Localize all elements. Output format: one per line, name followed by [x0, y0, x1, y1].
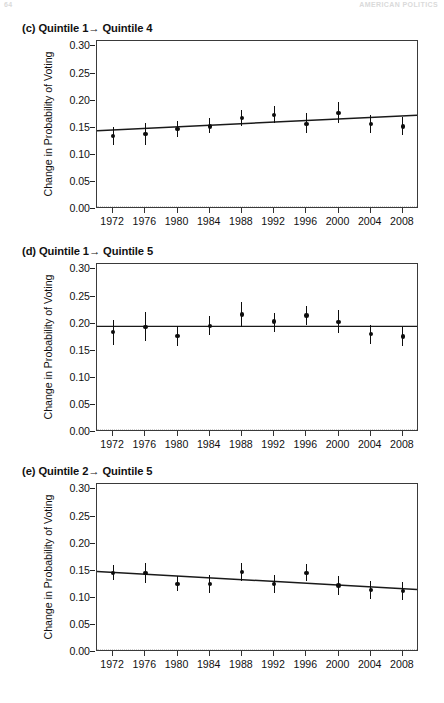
chart-panel-d: (d) Quintile 1→ Quintile 5Change in Prob… [0, 245, 444, 453]
x-tick-mark [402, 651, 403, 656]
plot-box [96, 40, 418, 208]
plot-area-wrapper: Change in Probability of Voting0.300.250… [0, 483, 444, 681]
y-tick-mark [90, 516, 95, 517]
x-tick-mark [370, 651, 371, 656]
x-tick-label: 2008 [382, 215, 422, 227]
y-tick-label: 0.15 [56, 345, 90, 355]
y-tick-mark [90, 268, 95, 269]
panel-title: (d) Quintile 1→ Quintile 5 [22, 245, 153, 257]
y-tick-label: 0.05 [56, 619, 90, 629]
x-tick-mark [177, 431, 178, 436]
panel-title: (e) Quintile 2→ Quintile 5 [22, 465, 152, 477]
x-tick-mark [273, 431, 274, 436]
page-header: 64 AMERICAN POLITICS [0, 0, 444, 14]
x-axis-ticks: 1972197619801984198819921996200020042008 [96, 208, 418, 234]
y-tick-label: 0.25 [56, 68, 90, 78]
data-point [208, 124, 212, 128]
y-tick-mark [90, 296, 95, 297]
x-tick-mark [112, 431, 113, 436]
y-axis-ticks: 0.300.250.200.150.100.050.00 [56, 483, 90, 651]
y-tick-label: 0.30 [56, 263, 90, 273]
y-tick-mark [90, 624, 95, 625]
trend-line [97, 264, 417, 430]
data-point [304, 313, 308, 317]
plot-area-wrapper: Change in Probability of Voting0.300.250… [0, 263, 444, 461]
x-tick-mark [144, 208, 145, 213]
data-point [304, 122, 308, 126]
y-tick-label: 0.10 [56, 592, 90, 602]
y-tick-label: 0.10 [56, 372, 90, 382]
data-point [304, 571, 308, 575]
y-tick-label: 0.20 [56, 538, 90, 548]
x-tick-mark [273, 651, 274, 656]
y-tick-mark [90, 127, 95, 128]
plot-area-wrapper: Change in Probability of Voting0.300.250… [0, 40, 444, 238]
y-tick-label: 0.15 [56, 122, 90, 132]
y-tick-mark [90, 73, 95, 74]
y-tick-mark [90, 377, 95, 378]
x-tick-mark [112, 208, 113, 213]
y-tick-mark [90, 543, 95, 544]
x-tick-mark [177, 651, 178, 656]
y-tick-mark [90, 651, 95, 652]
x-tick-mark [209, 431, 210, 436]
x-tick-mark [209, 651, 210, 656]
x-tick-mark [402, 208, 403, 213]
y-tick-mark [90, 323, 95, 324]
y-tick-mark [90, 431, 95, 432]
chart-panel-c: (c) Quintile 1→ Quintile 4Change in Prob… [0, 22, 444, 230]
y-tick-mark [90, 208, 95, 209]
data-point [336, 320, 340, 324]
x-tick-mark [338, 651, 339, 656]
y-tick-mark [90, 570, 95, 571]
data-point [143, 325, 147, 329]
x-tick-mark [112, 651, 113, 656]
data-point [175, 334, 179, 338]
y-tick-label: 0.05 [56, 399, 90, 409]
y-tick-label: 0.25 [56, 291, 90, 301]
data-point [175, 127, 179, 131]
x-tick-mark [144, 651, 145, 656]
data-point [401, 589, 405, 593]
data-point [401, 334, 405, 338]
y-axis-ticks: 0.300.250.200.150.100.050.00 [56, 40, 90, 208]
data-point [401, 124, 405, 128]
plot-box [96, 483, 418, 651]
x-tick-mark [338, 208, 339, 213]
data-point [272, 319, 276, 323]
data-point [208, 324, 212, 328]
data-point [143, 132, 147, 136]
x-tick-mark [305, 651, 306, 656]
y-tick-mark [90, 350, 95, 351]
y-tick-mark [90, 404, 95, 405]
plot-box [96, 263, 418, 431]
x-tick-mark [305, 208, 306, 213]
y-tick-label: 0.30 [56, 40, 90, 50]
y-tick-label: 0.00 [56, 426, 90, 436]
x-tick-mark [209, 208, 210, 213]
y-tick-mark [90, 154, 95, 155]
y-tick-mark [90, 100, 95, 101]
y-tick-label: 0.20 [56, 318, 90, 328]
y-tick-label: 0.00 [56, 646, 90, 656]
data-point [240, 312, 244, 316]
data-point [240, 570, 244, 574]
x-tick-label: 2008 [382, 438, 422, 450]
data-point [175, 582, 179, 586]
x-tick-mark [273, 208, 274, 213]
x-tick-mark [402, 431, 403, 436]
y-tick-mark [90, 45, 95, 46]
x-axis-ticks: 1972197619801984198819921996200020042008 [96, 431, 418, 457]
x-tick-label: 2008 [382, 658, 422, 670]
y-tick-label: 0.00 [56, 203, 90, 213]
x-tick-mark [370, 208, 371, 213]
x-tick-mark [241, 208, 242, 213]
data-point [336, 111, 340, 115]
data-point [143, 571, 147, 575]
y-tick-mark [90, 488, 95, 489]
y-tick-label: 0.05 [56, 176, 90, 186]
page-number: 64 [4, 1, 13, 8]
y-tick-label: 0.30 [56, 483, 90, 493]
y-tick-label: 0.10 [56, 149, 90, 159]
x-tick-mark [144, 431, 145, 436]
